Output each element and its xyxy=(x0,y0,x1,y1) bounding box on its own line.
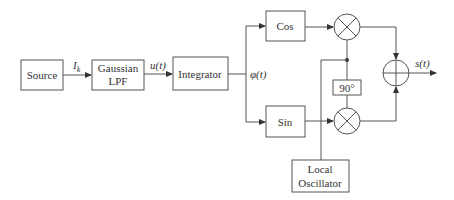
signal-ut: u(t) xyxy=(150,59,166,72)
signal-phit: φ(t) xyxy=(250,68,267,81)
source-block: Source xyxy=(21,60,63,90)
lpf-label-line2: LPF xyxy=(109,75,128,87)
signal-st: s(t) xyxy=(415,57,430,70)
lo-label-line1: Local xyxy=(307,163,332,175)
lo-label-line2: Oscillator xyxy=(298,177,342,189)
local-oscillator-block: Local Oscillator xyxy=(292,160,349,192)
source-label: Source xyxy=(27,69,58,81)
phase-shift-block: 90° xyxy=(333,80,361,95)
sin-block: Sin xyxy=(266,106,305,137)
summer-icon xyxy=(383,60,409,86)
mixer-top-icon xyxy=(334,14,360,40)
integrator-block: Integrator xyxy=(173,57,228,90)
phase-shift-label: 90° xyxy=(339,82,354,94)
integrator-label: Integrator xyxy=(178,68,222,80)
sin-label: Sin xyxy=(278,116,293,128)
mixer-bottom-icon xyxy=(334,108,360,134)
gmsk-block-diagram: Source Ik Gaussian LPF u(t) Integrator φ… xyxy=(0,0,454,200)
signal-ik: Ik xyxy=(72,59,81,74)
lpf-label-line1: Gaussian xyxy=(98,62,139,74)
wire-bottom-mixer-to-summer xyxy=(360,87,396,121)
cos-block: Cos xyxy=(266,11,305,41)
wire-top-mixer-to-summer xyxy=(360,27,396,59)
cos-label: Cos xyxy=(276,20,293,32)
gaussian-lpf-block: Gaussian LPF xyxy=(92,60,144,90)
